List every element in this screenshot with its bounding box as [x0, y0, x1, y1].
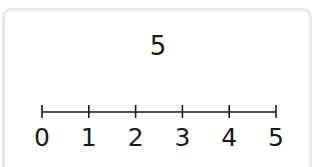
tick-label-4: 4 — [221, 123, 237, 152]
number-line: 012345 — [0, 0, 316, 167]
tick-label-2: 2 — [128, 123, 144, 152]
tick-label-0: 0 — [34, 123, 50, 152]
tick-label-3: 3 — [174, 123, 190, 152]
number-line-labels: 012345 — [34, 123, 284, 152]
tick-label-1: 1 — [81, 123, 97, 152]
tick-label-5: 5 — [268, 123, 284, 152]
